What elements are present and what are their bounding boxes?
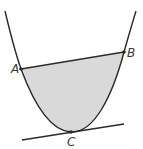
label-c: C [67,135,76,149]
label-b: B [127,46,135,60]
parabola-diagram: A B C [0,0,143,149]
point-c [69,130,73,134]
shaded-region [21,52,124,132]
point-b [122,50,126,54]
point-a [19,67,23,71]
label-a: A [10,62,19,76]
